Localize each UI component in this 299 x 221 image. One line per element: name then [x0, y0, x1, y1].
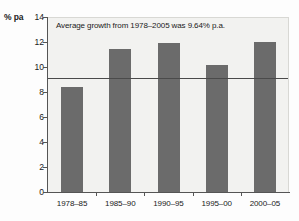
y-axis-tick-label: 14 [28, 13, 44, 22]
y-axis-tick-mark [43, 42, 47, 43]
x-axis-line [47, 192, 290, 193]
y-axis-tick-labels: 02468101214 [24, 0, 44, 221]
bar [206, 65, 228, 193]
plot-area [48, 17, 289, 192]
average-reference-line [48, 78, 288, 79]
x-axis-tick-label: 2000–05 [240, 199, 290, 208]
y-axis-tick-mark [43, 167, 47, 168]
bar-chart-figure: % pa 02468101214 Average growth from 197… [0, 0, 299, 221]
y-axis-tick-label: 4 [28, 138, 44, 147]
y-axis-tick-mark [43, 17, 47, 18]
y-axis-tick-label: 12 [28, 38, 44, 47]
y-axis-tick-label: 2 [28, 163, 44, 172]
y-axis-tick-mark [43, 142, 47, 143]
bar [254, 42, 276, 192]
x-axis-tick-label: 1990–95 [144, 199, 194, 208]
bar [61, 87, 83, 192]
x-axis-tick-mark [144, 192, 145, 196]
y-axis-tick-mark [43, 117, 47, 118]
y-axis-tick-label: 6 [28, 113, 44, 122]
x-axis-tick-mark [193, 192, 194, 196]
y-axis-unit-label: % pa [4, 12, 23, 22]
y-axis-tick-mark [43, 92, 47, 93]
x-axis-tick-mark [241, 192, 242, 196]
x-axis-tick-label: 1995–00 [192, 199, 242, 208]
bar [158, 43, 180, 192]
y-axis-tick-label: 0 [28, 188, 44, 197]
average-growth-annotation: Average growth from 1978–2005 was 9.64% … [56, 21, 225, 30]
x-axis-tick-label: 1985–90 [95, 199, 145, 208]
y-axis-tick-mark [43, 192, 47, 193]
x-axis-tick-label: 1978–85 [47, 199, 97, 208]
bar [109, 49, 131, 192]
y-axis-tick-label: 8 [28, 88, 44, 97]
y-axis-tick-mark [43, 67, 47, 68]
y-axis-tick-label: 10 [28, 63, 44, 72]
x-axis-tick-mark [96, 192, 97, 196]
